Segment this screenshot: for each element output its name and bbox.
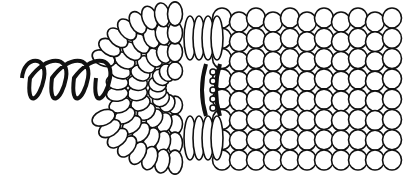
- spring-coil: [22, 61, 110, 99]
- clip: [202, 64, 220, 116]
- corn-spring-illustration: [0, 0, 409, 178]
- corn-cob: [90, 2, 402, 174]
